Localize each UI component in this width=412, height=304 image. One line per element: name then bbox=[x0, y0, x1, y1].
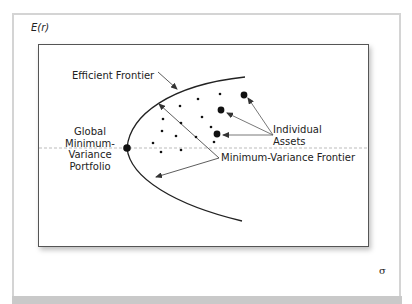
small-asset-dot bbox=[219, 93, 222, 96]
min-var-arrow-upper bbox=[159, 104, 219, 158]
small-asset-dot bbox=[180, 122, 183, 125]
small-asset-dot bbox=[175, 135, 178, 138]
min-var-arrow-lower bbox=[156, 158, 219, 177]
small-asset-dot bbox=[160, 151, 163, 154]
individual-assets-line1: Individual bbox=[273, 124, 333, 136]
efficient-frontier-arrow bbox=[158, 72, 177, 89]
gmv-point bbox=[123, 144, 131, 152]
small-asset-dot bbox=[195, 136, 198, 139]
small-asset-dot bbox=[152, 142, 155, 145]
efficient-frontier-label: Efficient Frontier bbox=[72, 70, 154, 81]
gmv-line3: Variance bbox=[58, 149, 122, 161]
small-asset-dot bbox=[213, 141, 216, 144]
small-asset-dot bbox=[180, 149, 183, 152]
individual-asset-dot bbox=[218, 107, 225, 114]
asset-arrow-2 bbox=[227, 113, 273, 135]
small-asset-dot bbox=[161, 130, 164, 133]
small-asset-dot bbox=[201, 116, 204, 119]
gmv-label: Global Minimum- Variance Portfolio bbox=[58, 126, 122, 172]
individual-asset-dot bbox=[214, 131, 221, 138]
gmv-line2: Minimum- bbox=[58, 138, 122, 150]
small-asset-dot bbox=[179, 105, 182, 108]
small-asset-dot bbox=[197, 98, 200, 101]
small-asset-dot bbox=[162, 118, 165, 121]
small-asset-dot bbox=[210, 126, 213, 129]
min-var-frontier-label: Minimum-Variance Frontier bbox=[221, 152, 355, 163]
individual-assets-line2: Assets bbox=[273, 136, 333, 148]
individual-asset-dot bbox=[241, 92, 248, 99]
gmv-line4: Portfolio bbox=[58, 161, 122, 173]
gmv-line1: Global bbox=[58, 126, 122, 138]
individual-assets-label: Individual Assets bbox=[273, 124, 333, 147]
efficient-frontier-curve bbox=[127, 77, 245, 148]
